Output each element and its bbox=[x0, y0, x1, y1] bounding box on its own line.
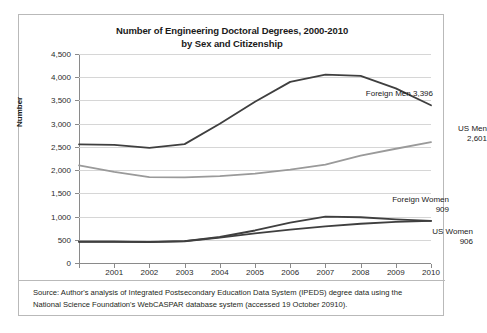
x-tick-label: 2006 bbox=[270, 268, 310, 277]
series-line bbox=[79, 142, 431, 177]
series-label-foreign-men: Foreign Men 3,396 bbox=[343, 89, 433, 99]
series-line bbox=[79, 221, 431, 242]
y-tick-label: 4,500 bbox=[25, 50, 71, 59]
series-label-line-2: 2,601 bbox=[397, 134, 487, 144]
series-label-us-men: US Men2,601 bbox=[397, 124, 487, 144]
chart-figure: Number of Engineering Doctoral Degrees, … bbox=[18, 14, 444, 316]
y-tick-label: 0 bbox=[25, 259, 71, 268]
series-lines bbox=[79, 54, 431, 263]
source-note-line-1: Source: Author's analysis of Integrated … bbox=[33, 287, 433, 299]
x-tick-label: 2008 bbox=[341, 268, 381, 277]
x-tick-label: 2010 bbox=[411, 268, 451, 277]
y-tick-label: 500 bbox=[25, 235, 71, 244]
x-tick-label: 2003 bbox=[165, 268, 205, 277]
series-line bbox=[79, 75, 431, 148]
x-tick-label: 2005 bbox=[235, 268, 275, 277]
series-label-line-1: US Men bbox=[397, 124, 487, 134]
y-tick-label: 4,000 bbox=[25, 73, 71, 82]
series-label-line-1: US Women bbox=[383, 227, 473, 237]
source-note: Source: Author's analysis of Integrated … bbox=[33, 287, 433, 311]
x-tick-label: 2009 bbox=[376, 268, 416, 277]
source-note-line-2: National Science Foundation's WebCASPAR … bbox=[33, 299, 433, 311]
series-label-line-1: Foreign Men 3,396 bbox=[343, 89, 433, 99]
series-label-us-women: US Women906 bbox=[383, 227, 473, 247]
y-tick-label: 3,000 bbox=[25, 119, 71, 128]
y-tick-label: 3,500 bbox=[25, 96, 71, 105]
plot-wrapper: Number 05001,0001,5002,0002,5003,0003,50… bbox=[19, 15, 445, 280]
series-label-line-2: 906 bbox=[383, 237, 473, 247]
y-tick-label: 1,500 bbox=[25, 189, 71, 198]
y-tick-label: 2,000 bbox=[25, 166, 71, 175]
x-tick-label: 2004 bbox=[200, 268, 240, 277]
source-divider bbox=[19, 280, 445, 281]
x-tick-label: 2001 bbox=[94, 268, 134, 277]
series-line bbox=[79, 217, 431, 242]
x-tick-label: 2007 bbox=[305, 268, 345, 277]
series-label-line-2: 909 bbox=[359, 205, 449, 215]
y-axis-title: Number bbox=[15, 97, 24, 127]
series-label-line-1: Foreign Women bbox=[359, 195, 449, 205]
x-tick-label: 2002 bbox=[129, 268, 169, 277]
series-label-foreign-women: Foreign Women909 bbox=[359, 195, 449, 215]
y-tick-label: 1,000 bbox=[25, 212, 71, 221]
y-tick-label: 2,500 bbox=[25, 142, 71, 151]
x-tick-mark bbox=[79, 264, 80, 268]
